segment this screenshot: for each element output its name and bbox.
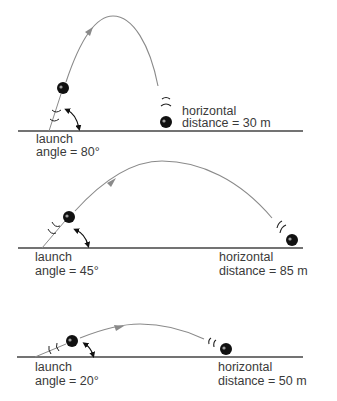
- motion-marks-icon: [50, 110, 61, 121]
- landing-ball-icon: [220, 343, 232, 355]
- panel-20-degrees: [17, 324, 303, 357]
- launch-label: launch: [36, 132, 73, 146]
- launch-path: [35, 344, 66, 357]
- distance-label: distance = 85 m: [219, 264, 308, 278]
- landing-ball-icon: [160, 116, 172, 128]
- panel-45-degrees: [18, 161, 303, 248]
- angle-arrow-icon: [85, 344, 93, 355]
- trajectory-arrow-icon: [85, 27, 93, 36]
- landing-motion-marks-icon: [277, 221, 286, 233]
- trajectory-curve: [75, 161, 272, 218]
- horizontal-label: horizontal: [218, 360, 272, 374]
- trajectory-arrow-icon: [114, 325, 124, 331]
- motion-marks-icon: [49, 343, 59, 354]
- angle-arrow-icon: [76, 230, 88, 245]
- panel-80-degrees: [18, 16, 303, 131]
- landing-ball-icon: [286, 234, 298, 246]
- distance-label: distance = 30 m: [182, 116, 271, 130]
- launch-label: launch: [35, 250, 72, 264]
- landing-motion-marks-icon: [209, 338, 216, 347]
- ball-icon: [66, 335, 78, 347]
- motion-marks-icon: [48, 222, 60, 234]
- trajectory-arrow-icon: [107, 178, 116, 187]
- angle-arrow-icon: [67, 110, 79, 128]
- trajectory-curve: [66, 16, 158, 86]
- ball-icon: [57, 82, 69, 94]
- ball-icon: [63, 211, 75, 223]
- landing-motion-marks-icon: [161, 98, 171, 107]
- angle-label: angle = 80°: [36, 145, 100, 159]
- angle-label: angle = 45°: [35, 264, 99, 278]
- horizontal-label: horizontal: [219, 250, 273, 264]
- projectile-diagram: [0, 0, 337, 401]
- launch-label: launch: [35, 360, 72, 374]
- trajectory-curve: [80, 324, 204, 339]
- launch-path: [49, 94, 61, 131]
- angle-label: angle = 20°: [35, 374, 99, 388]
- distance-label: distance = 50 m: [218, 374, 307, 388]
